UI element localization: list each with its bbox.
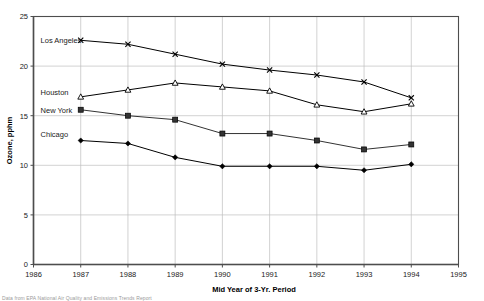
x-tick-label: 1987 <box>72 270 89 279</box>
series-label-los-angeles: Los Angeles <box>41 36 82 45</box>
chart-footnote: Data from EPA National Air Quality and E… <box>2 295 152 301</box>
y-tick-label: 15 <box>20 112 28 121</box>
marker-square <box>220 131 225 136</box>
x-tick-label: 1994 <box>403 270 420 279</box>
y-axis-title: Ozone, pphm <box>5 116 14 164</box>
marker-square <box>267 131 272 136</box>
series-label-new-york: New York <box>41 106 73 115</box>
x-tick-label: 1986 <box>25 270 42 279</box>
marker-square <box>362 147 367 152</box>
series-label-houston: Houston <box>41 88 69 97</box>
marker-square <box>409 142 414 147</box>
series-label-chicago: Chicago <box>41 130 69 139</box>
marker-square <box>125 113 130 118</box>
y-tick-label: 20 <box>20 62 28 71</box>
x-tick-label: 1988 <box>120 270 137 279</box>
y-tick-label: 25 <box>20 12 28 21</box>
chart-canvas: 0510152025198619871988198919901991199219… <box>0 0 484 301</box>
marker-square <box>78 107 83 112</box>
x-tick-label: 1991 <box>261 270 278 279</box>
x-axis-title: Mid Year of 3-Yr. Period <box>212 285 296 294</box>
ozone-trend-chart: 0510152025198619871988198919901991199219… <box>0 0 484 301</box>
y-axis-ticks: 0510152025 <box>20 12 34 269</box>
x-tick-label: 1992 <box>308 270 325 279</box>
x-tick-label: 1990 <box>214 270 231 279</box>
y-tick-label: 5 <box>24 211 28 220</box>
x-tick-label: 1989 <box>167 270 184 279</box>
y-tick-label: 10 <box>20 161 28 170</box>
y-tick-label: 0 <box>24 260 28 269</box>
marker-square <box>173 117 178 122</box>
x-axis-ticks: 1986198719881989199019911992199319941995 <box>25 265 467 280</box>
plot-background <box>34 17 459 265</box>
marker-square <box>314 138 319 143</box>
x-tick-label: 1995 <box>450 270 467 279</box>
x-tick-label: 1993 <box>356 270 373 279</box>
